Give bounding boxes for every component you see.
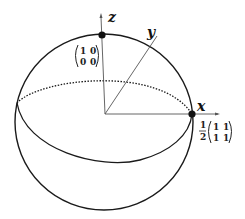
matrix-cell: 0	[90, 57, 96, 67]
z-axis-arrowhead	[100, 13, 103, 18]
x-point-matrix: 1 2 1 1 1 1	[199, 120, 232, 143]
x-axis-label: x	[196, 98, 206, 114]
x-axis-arrowhead	[215, 113, 220, 116]
sphere-outline	[15, 34, 193, 210]
y-axis-label: y	[146, 24, 156, 40]
bloch-sphere-diagram: z y x 1 0 0 0 1 2 1 1 1 1	[0, 0, 245, 219]
north-pole-point	[98, 31, 105, 38]
north-pole-matrix: 1 0 0 0	[76, 45, 99, 67]
bloch-sphere-svg: z y x 1 0 0 0 1 2 1 1 1 1	[0, 0, 245, 219]
x-axis-point	[188, 110, 195, 117]
prefactor-denominator: 2	[200, 132, 206, 142]
matrix-left-paren	[209, 121, 212, 143]
matrix-right-paren	[229, 121, 232, 143]
matrix-cell: 1	[223, 133, 229, 143]
y-axis	[105, 36, 157, 114]
matrix-cell: 0	[80, 57, 86, 67]
matrix-cell: 1	[223, 122, 229, 132]
matrix-cell: 1	[80, 46, 86, 56]
matrix-right-paren	[96, 45, 99, 67]
z-axis-label: z	[107, 9, 117, 25]
matrix-cell: 1	[213, 133, 219, 143]
matrix-cell: 1	[213, 122, 219, 132]
prefactor-numerator: 1	[200, 120, 206, 130]
matrix-left-paren	[76, 45, 79, 67]
matrix-cell: 0	[90, 46, 96, 56]
